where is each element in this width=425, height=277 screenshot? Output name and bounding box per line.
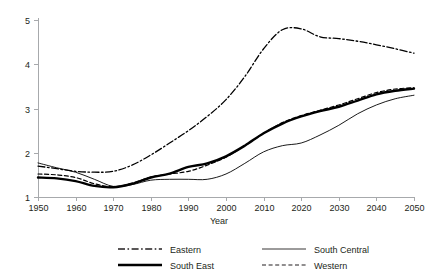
axes <box>34 18 415 201</box>
legend-item-eastern[interactable]: Eastern <box>118 245 201 255</box>
y-tick-label: 1 <box>25 193 30 203</box>
legend-label: South Central <box>314 245 369 255</box>
x-tick-label: 2010 <box>254 203 274 213</box>
x-tick-label: 2030 <box>329 203 349 213</box>
x-tick-label: 2050 <box>404 203 424 213</box>
legend-item-south-east[interactable]: South East <box>118 261 215 271</box>
legend-label: Western <box>314 261 347 271</box>
legend-label: South East <box>170 261 215 271</box>
y-tick-label: 3 <box>25 105 30 115</box>
y-tick-label: 5 <box>25 16 30 26</box>
y-tick-label: 4 <box>25 60 30 70</box>
line-chart: 1234519501960197019801990200020102020203… <box>0 0 425 277</box>
chart-figure: 1234519501960197019801990200020102020203… <box>0 0 425 277</box>
x-tick-label: 2020 <box>291 203 311 213</box>
chart-legend: EasternSouth CentralSouth EastWestern <box>118 245 369 271</box>
x-axis-title: Year <box>210 216 228 226</box>
series-line-south-central <box>38 95 414 186</box>
x-tick-label: 1990 <box>178 203 198 213</box>
legend-label: Eastern <box>170 245 201 255</box>
x-tick-label: 1960 <box>66 203 86 213</box>
axis-labels: 1234519501960197019801990200020102020203… <box>25 16 425 226</box>
data-series-layer <box>38 28 414 188</box>
x-tick-label: 1970 <box>103 203 123 213</box>
x-tick-label: 2040 <box>366 203 386 213</box>
legend-item-south-central[interactable]: South Central <box>262 245 369 255</box>
x-tick-label: 2000 <box>216 203 236 213</box>
y-tick-label: 2 <box>25 149 30 159</box>
legend-item-western[interactable]: Western <box>262 261 347 271</box>
x-tick-label: 1950 <box>28 203 48 213</box>
x-tick-label: 1980 <box>141 203 161 213</box>
